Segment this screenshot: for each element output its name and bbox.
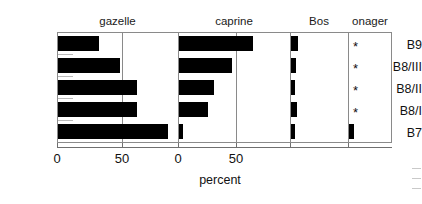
bar-bos-b8-iii: [291, 58, 296, 73]
scan-artifact: [412, 178, 421, 179]
row-separator: [58, 120, 73, 121]
bar-bos-b7: [291, 124, 295, 139]
scan-artifact: [412, 188, 421, 189]
marker-onager-b9: *: [353, 40, 358, 53]
x-tick-label-caprine-50: 50: [224, 152, 248, 165]
bar-bos-b8-i: [291, 102, 297, 117]
x-tick-onager-0: [348, 143, 349, 148]
category-label-b7: B7: [368, 127, 422, 140]
row-separator: [58, 54, 73, 55]
bar-gazelle-b8-i: [58, 102, 137, 117]
row-separator: [58, 76, 73, 77]
bar-caprine-b8-i: [179, 102, 208, 117]
marker-onager-b8-iii: *: [353, 62, 358, 75]
panel-header-onager: onager: [348, 14, 392, 28]
x-axis-line: [57, 147, 392, 148]
bar-onager-b7: [349, 124, 354, 139]
bar-bos-b8-ii: [291, 80, 295, 95]
bar-gazelle-b8-iii: [58, 58, 120, 73]
x-tick-caprine-50: [236, 143, 237, 148]
marker-onager-b8-ii: *: [353, 84, 358, 97]
bar-bos-b9: [291, 36, 298, 51]
panel-header-gazelle: gazelle: [57, 14, 178, 28]
x-axis-title: percent: [160, 174, 280, 187]
category-label-b8-iii: B8/III: [368, 61, 422, 74]
x-tick-label-gazelle-0: 0: [47, 152, 67, 165]
bar-caprine-b8-iii: [179, 58, 232, 73]
x-tick-gazelle-50: [122, 143, 123, 148]
panel-header-bos: Bos: [290, 14, 348, 28]
x-tick-label-caprine-0: 0: [168, 152, 188, 165]
x-tick-caprine-0: [178, 143, 179, 148]
category-label-b8-i: B8/I: [368, 105, 422, 118]
x-tick-bos-0: [290, 143, 291, 148]
category-label-b8-ii: B8/II: [368, 83, 422, 96]
bar-caprine-b7: [179, 124, 183, 139]
bar-caprine-b9: [179, 36, 253, 51]
bar-gazelle-b8-ii: [58, 80, 137, 95]
figure: gazelle caprine Bos onager B9 B8/III B8/…: [0, 0, 422, 204]
x-tick-gazelle-0: [57, 143, 58, 148]
x-tick-label-gazelle-50: 50: [110, 152, 134, 165]
row-separator: [58, 98, 73, 99]
category-label-b9: B9: [368, 39, 422, 52]
bar-gazelle-b9: [58, 36, 99, 51]
panel-header-caprine: caprine: [178, 14, 290, 28]
bar-gazelle-b7: [58, 124, 168, 139]
scan-artifact: [412, 168, 421, 169]
bar-caprine-b8-ii: [179, 80, 214, 95]
marker-onager-b8-i: *: [353, 106, 358, 119]
